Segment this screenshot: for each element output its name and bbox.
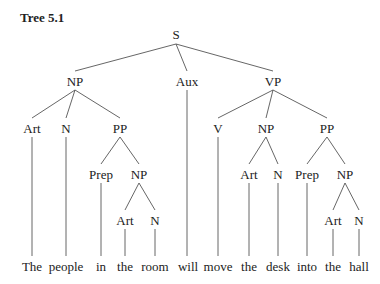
word: into (297, 260, 317, 274)
word: the (241, 260, 257, 274)
word: move (204, 260, 233, 274)
node-np: NP (131, 168, 148, 182)
word: in (96, 260, 106, 274)
node-aux: Aux (176, 75, 198, 89)
word: room (141, 260, 168, 274)
node-prep: Prep (295, 168, 319, 182)
word: hall (349, 260, 369, 274)
node-art: Art (240, 168, 257, 182)
node-n: N (61, 122, 70, 136)
node-np-object: NP (258, 122, 275, 136)
node-n: N (354, 214, 363, 228)
word: the (325, 260, 341, 274)
word: will (178, 260, 198, 274)
node-pp: PP (320, 122, 334, 136)
tree-branches (0, 0, 380, 284)
node-n: N (150, 214, 159, 228)
syntax-tree-diagram: Tree 5.1 (0, 0, 380, 284)
node-np: NP (337, 168, 354, 182)
node-art: Art (23, 122, 40, 136)
node-s: S (172, 28, 179, 42)
node-n: N (273, 168, 282, 182)
word: desk (266, 260, 290, 274)
word: people (49, 260, 84, 274)
node-prep: Prep (89, 168, 113, 182)
word: The (22, 260, 42, 274)
node-pp: PP (113, 122, 127, 136)
node-vp: VP (265, 75, 282, 89)
node-np-subject: NP (67, 75, 84, 89)
node-art: Art (324, 214, 341, 228)
word: the (117, 260, 133, 274)
node-art: Art (116, 214, 133, 228)
node-v: V (213, 122, 222, 136)
